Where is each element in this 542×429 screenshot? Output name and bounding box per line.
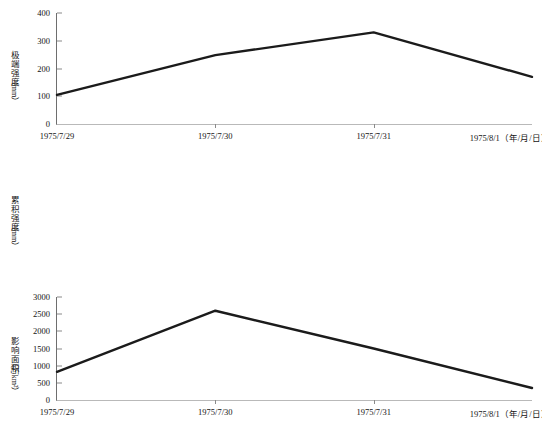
- series-line-panel-0: [57, 32, 532, 94]
- x-tick-label-p0-0: 1975/7/29: [40, 131, 74, 141]
- x-tick-label-p0-3: 1975/8/1（年/月/日）: [470, 131, 542, 143]
- chart-panel-cumulative-intensity: 累积强度（mm） 0500100015002000250030001975/7/…: [0, 145, 542, 291]
- data-series-panel-0: [57, 13, 532, 124]
- y-axis-title-panel-1: 累积强度（mm）: [6, 145, 22, 291]
- y-axis-unit-panel-0: （mm）: [10, 77, 18, 105]
- y-tick-label-p0-0: 0: [46, 119, 57, 129]
- plot-area-panel-0: 01002003004001975/7/291975/7/301975/7/31…: [56, 13, 532, 125]
- y-tick-label-p0-3: 300: [37, 36, 57, 46]
- y-tick-label-p0-4: 400: [37, 8, 57, 18]
- x-tick-mark-p0-1: [215, 124, 216, 128]
- x-tick-label-p0-2: 1975/7/31: [356, 131, 390, 141]
- chart-panel-affected-area: 影响面积（万km²） 0204060801975/7/291975/7/3019…: [0, 290, 542, 429]
- y-axis-unit-panel-2: （万km²）: [10, 359, 18, 396]
- x-tick-mark-p0-2: [374, 124, 375, 128]
- chart-page: { "page": { "title": "1975年7月29日—8月1日特大暴…: [0, 0, 542, 429]
- y-tick-label-p0-2: 200: [37, 64, 57, 74]
- chart-panel-extreme-intensity: 极端强度（mm） 01002003004001975/7/291975/7/30…: [0, 0, 542, 146]
- y-axis-title-panel-0: 极端强度（mm）: [6, 0, 22, 146]
- x-tick-label-p0-1: 1975/7/30: [198, 131, 232, 141]
- y-axis-title-panel-2: 影响面积（万km²）: [6, 290, 22, 429]
- y-tick-label-p0-1: 100: [37, 91, 57, 101]
- y-axis-unit-panel-1: （mm）: [10, 222, 18, 250]
